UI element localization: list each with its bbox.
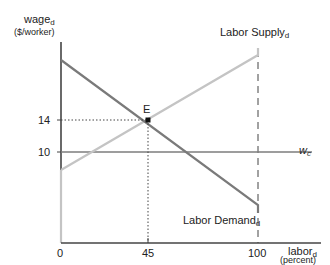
- demand-label: Labor Demandd: [183, 215, 260, 228]
- x-axis-unit: (percent): [280, 256, 316, 265]
- tick-label-x-0: 0: [57, 248, 63, 259]
- tick-label-y-14: 14: [38, 115, 50, 126]
- y-axis-unit: ($/worker): [14, 28, 55, 37]
- equilibrium-point: [146, 118, 151, 123]
- labor-demand-line: [61, 60, 258, 213]
- supply-label: Labor Supplyd: [220, 27, 289, 40]
- tick-label-x-100: 100: [248, 248, 266, 259]
- point-e-label: E: [143, 104, 150, 115]
- tick-label-y-10: 10: [38, 147, 50, 158]
- tick-label-x-45: 45: [142, 248, 154, 259]
- y-axis-title: waged: [24, 14, 55, 27]
- wc-label: wc: [299, 145, 311, 158]
